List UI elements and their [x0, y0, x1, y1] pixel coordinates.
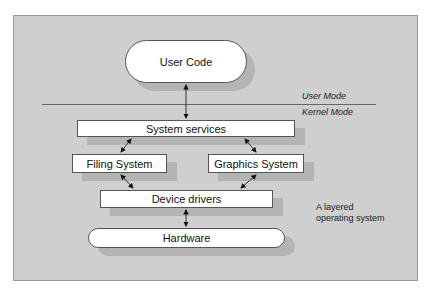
arrow-services-graphics: [245, 139, 256, 152]
caption-line-2: operating system: [316, 213, 385, 224]
arrow-services-filing: [121, 139, 131, 152]
arrow-filing-drivers: [121, 175, 133, 188]
caption-line-1: A layered: [316, 202, 385, 213]
diagram-caption: A layered operating system: [316, 202, 385, 224]
arrow-graphics-drivers: [241, 175, 256, 188]
connector-arrows: [0, 0, 431, 294]
